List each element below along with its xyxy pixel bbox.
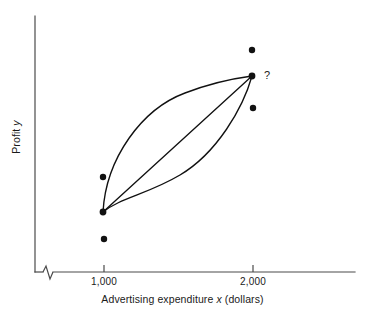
data-point-left-endpoint <box>100 209 107 216</box>
y-axis-title-variable: y <box>10 120 22 125</box>
data-point-right-lower-stray <box>250 105 256 111</box>
y-axis-title-prefix: Profit <box>10 126 22 154</box>
plot-canvas <box>0 0 365 317</box>
y-axis-title: Profit y <box>10 107 22 167</box>
data-point-right-endpoint <box>249 73 256 80</box>
scatter-plot-figure: ? 1,000 2,000 Advertising expenditure x … <box>0 0 365 317</box>
x-axis-title: Advertising expenditure x (dollars) <box>0 293 365 305</box>
data-point-left-upper-stray <box>100 174 106 180</box>
data-point-right-upper-stray <box>249 47 255 53</box>
x-tick-label-1000: 1,000 <box>74 276 134 287</box>
x-axis-title-prefix: Advertising expenditure <box>101 293 216 305</box>
x-tick-label-2000: 2,000 <box>223 276 283 287</box>
data-point-left-lower-stray <box>101 236 107 242</box>
x-axis-title-suffix: (dollars) <box>222 293 264 305</box>
x-axis-break-icon <box>43 266 53 279</box>
question-mark-annotation: ? <box>264 69 270 81</box>
